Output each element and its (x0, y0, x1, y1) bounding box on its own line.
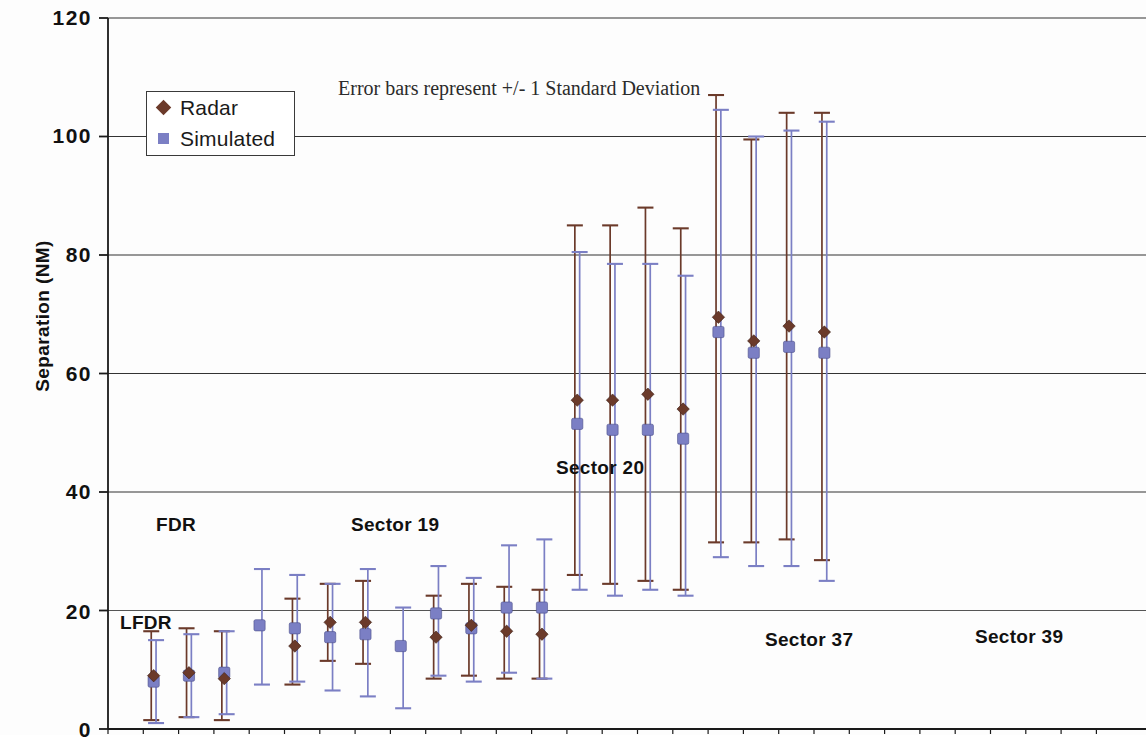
data-point-simulated-11 (501, 602, 512, 613)
legend-label-radar: Radar (180, 96, 238, 120)
data-point-simulated-14 (607, 424, 618, 435)
group-label-sector37: Sector 37 (765, 629, 853, 651)
legend-label-simulated: Simulated (180, 127, 275, 151)
data-point-radar-7 (359, 616, 371, 628)
y-tick-label-120: 120 (0, 6, 92, 30)
group-label-fdr: FDR (156, 514, 196, 536)
data-point-simulated-12 (536, 602, 547, 613)
data-point-simulated-20 (819, 347, 830, 358)
errorbar-simulated-8 (395, 608, 411, 709)
data-point-radar-20 (818, 326, 830, 338)
data-point-simulated-6 (325, 632, 336, 643)
data-point-simulated-16 (678, 433, 689, 444)
data-point-radar-18 (748, 335, 760, 347)
data-point-simulated-18 (748, 347, 759, 358)
data-point-simulated-15 (642, 424, 653, 435)
data-point-radar-5 (289, 640, 301, 652)
data-point-radar-13 (571, 394, 583, 406)
data-point-radar-6 (324, 616, 336, 628)
y-tick-label-20: 20 (0, 600, 92, 624)
data-point-simulated-7 (360, 629, 371, 640)
data-point-simulated-8 (395, 640, 406, 651)
data-point-simulated-13 (572, 418, 583, 429)
chart-legend: Radar Simulated (146, 91, 295, 156)
y-tick-label-40: 40 (0, 480, 92, 504)
data-point-radar-15 (642, 388, 654, 400)
radar-marker-icon (156, 100, 172, 116)
group-label-lfdr: LFDR (120, 612, 172, 634)
data-point-simulated-19 (783, 341, 794, 352)
data-point-radar-19 (783, 320, 795, 332)
y-tick-label-0: 0 (0, 718, 92, 741)
data-point-radar-11 (500, 625, 512, 637)
data-point-simulated-9 (430, 608, 441, 619)
data-point-radar-16 (677, 403, 689, 415)
data-point-simulated-5 (289, 623, 300, 634)
simulated-marker-icon (158, 133, 169, 144)
y-axis-title: Separation (NM) (32, 221, 54, 411)
data-point-radar-17 (712, 311, 724, 323)
data-point-simulated-4 (254, 620, 265, 631)
y-tick-label-100: 100 (0, 124, 92, 148)
legend-item-radar: Radar (147, 92, 294, 123)
data-point-radar-12 (536, 628, 548, 640)
group-label-sector19: Sector 19 (351, 514, 439, 536)
data-point-radar-9 (430, 631, 442, 643)
group-label-sector39: Sector 39 (975, 626, 1063, 648)
data-series-layer (143, 95, 835, 723)
data-point-simulated-17 (713, 326, 724, 337)
error-bar-annotation: Error bars represent +/- 1 Standard Devi… (338, 77, 700, 100)
group-label-sector20: Sector 20 (556, 457, 644, 479)
data-point-radar-14 (606, 394, 618, 406)
legend-item-simulated: Simulated (147, 123, 294, 154)
